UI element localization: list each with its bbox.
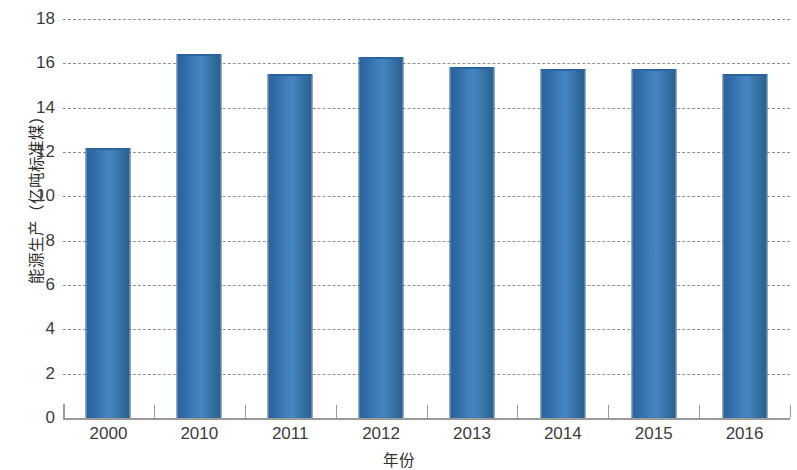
bar-2010[interactable]: [177, 54, 222, 418]
y-axis-tick-label: 10: [7, 186, 55, 206]
x-axis-tick: [427, 405, 428, 418]
x-axis-tick: [336, 405, 337, 418]
y-axis-tick-label: 0: [7, 408, 55, 428]
x-axis-tick: [245, 405, 246, 418]
y-axis-tick-label: 4: [7, 319, 55, 339]
x-axis-tick-label: 2016: [700, 424, 790, 444]
x-axis-tick: [790, 405, 791, 418]
y-axis-tick-label: 12: [7, 142, 55, 162]
bar-2000[interactable]: [86, 148, 131, 418]
x-axis-tick-label: 2015: [609, 424, 699, 444]
bar-2011[interactable]: [268, 74, 313, 418]
bar-slot: [427, 19, 518, 418]
bar-2013[interactable]: [449, 67, 494, 418]
x-axis-tick-label: 2012: [336, 424, 426, 444]
x-axis-tick: [154, 405, 155, 418]
bar-top-edge: [541, 69, 584, 71]
bar-2016[interactable]: [722, 74, 767, 418]
x-axis-title: 年份: [0, 448, 797, 470]
bar-slot: [63, 19, 154, 418]
y-axis-tick-label: 14: [7, 98, 55, 118]
bar-slot: [336, 19, 427, 418]
y-axis-tick-label: 18: [7, 9, 55, 29]
x-axis-tick-label: 2000: [63, 424, 153, 444]
y-axis-tick-label: 2: [7, 364, 55, 384]
x-axis-tick-label: 2010: [154, 424, 244, 444]
y-axis-tick-label: 8: [7, 231, 55, 251]
x-axis-tick: [517, 405, 518, 418]
bar-top-edge: [178, 54, 221, 56]
bar-2014[interactable]: [540, 69, 585, 418]
bar-slot: [608, 19, 699, 418]
x-axis-tick-label: 2011: [245, 424, 335, 444]
bar-top-edge: [723, 74, 766, 76]
x-axis-tick-label: 2013: [427, 424, 517, 444]
x-axis-tick: [63, 405, 64, 418]
bar-top-edge: [360, 57, 403, 59]
bar-top-edge: [87, 148, 130, 150]
y-axis-tick-label: 6: [7, 275, 55, 295]
x-axis-tick: [699, 405, 700, 418]
bar-slot: [699, 19, 790, 418]
bar-2012[interactable]: [359, 57, 404, 418]
bar-chart: 能源生产（亿吨标准煤） 024681012141618 200020102011…: [0, 0, 797, 470]
bar-2015[interactable]: [631, 69, 676, 418]
bar-slot: [517, 19, 608, 418]
bar-top-edge: [269, 74, 312, 76]
y-axis-tick-label: 16: [7, 53, 55, 73]
bar-slot: [154, 19, 245, 418]
bar-slot: [245, 19, 336, 418]
bar-top-edge: [632, 69, 675, 71]
bar-series: [63, 19, 790, 418]
x-axis-line: [63, 418, 790, 420]
x-axis-tick-label: 2014: [518, 424, 608, 444]
x-axis-tick: [608, 405, 609, 418]
bar-top-edge: [450, 67, 493, 69]
y-axis-tick-labels: 024681012141618: [0, 19, 55, 418]
